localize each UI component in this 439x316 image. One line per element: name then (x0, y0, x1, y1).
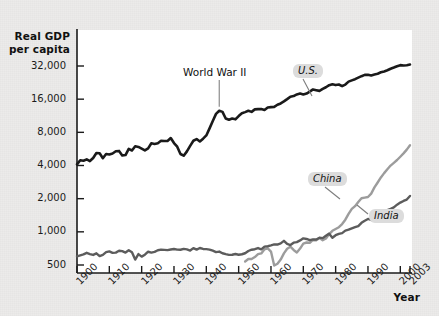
series-line-china (245, 145, 410, 265)
y-tick-label: 8,000 (4, 126, 66, 137)
y-tick-label: 2,000 (4, 192, 66, 203)
y-axis-title: Real GDP per capita (0, 30, 70, 55)
gdp-per-capita-chart-figure: Real GDP per capita Year 5001,0002,0004,… (0, 0, 439, 316)
series-label-china: China (308, 172, 347, 186)
series-line-india (77, 196, 410, 260)
series-label-india: India (369, 209, 404, 223)
y-tick-label: 32,000 (4, 60, 66, 71)
y-axis-title-line1: Real GDP (15, 30, 70, 42)
y-tick-label: 16,000 (4, 93, 66, 104)
y-tick-label: 4,000 (4, 159, 66, 170)
y-tick-label: 1,000 (4, 225, 66, 236)
annotation-world-war-ii: World War II (183, 66, 246, 78)
series-line-us (77, 65, 410, 165)
x-axis-title: Year (372, 291, 420, 304)
y-axis-title-line2: per capita (9, 43, 70, 55)
series-layer (77, 65, 410, 266)
series-label-us: U.S. (293, 64, 323, 78)
leader-line-china (325, 187, 340, 199)
leader-line-india (357, 205, 368, 214)
y-tick-label: 500 (4, 259, 66, 270)
annotation-layer (219, 79, 368, 214)
